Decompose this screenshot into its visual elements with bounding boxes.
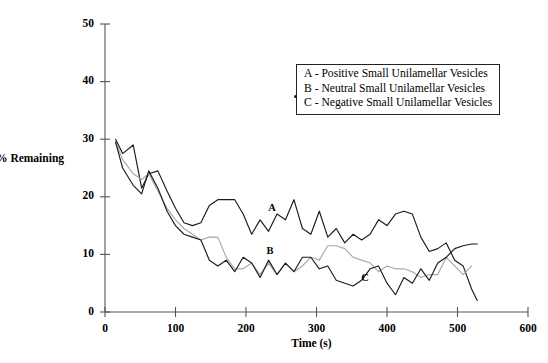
line-chart-plot: 010203040500100200300400500600Time (s)AB… xyxy=(0,0,548,363)
x-tick-label: 500 xyxy=(449,322,467,334)
x-tick-label: 400 xyxy=(378,322,396,334)
y-tick-label: 50 xyxy=(83,17,95,29)
x-tick-label: 100 xyxy=(167,322,185,334)
x-tick-label: 300 xyxy=(308,322,326,334)
y-tick-label: 10 xyxy=(83,247,95,259)
y-tick-label: 20 xyxy=(83,189,95,201)
legend-entry-c: C - Negative Small Unilamellar Vesicles xyxy=(304,96,492,111)
legend-entry-b: B - Neutral Small Unilamellar Vesicles xyxy=(304,82,492,97)
legend-entry-a: A - Positive Small Unilamellar Vesicles xyxy=(304,67,492,82)
x-tick-label: 0 xyxy=(102,322,108,334)
y-tick-label: 0 xyxy=(88,305,94,317)
chart-container: 010203040500100200300400500600Time (s)AB… xyxy=(0,0,548,363)
y-tick-label: 40 xyxy=(83,74,95,86)
curve-label-a: A xyxy=(268,202,276,213)
x-axis-title: Time (s) xyxy=(291,337,332,350)
curve-label-c: C xyxy=(361,272,369,283)
y-tick-label: 30 xyxy=(83,132,95,144)
curve-label-b: B xyxy=(266,245,273,256)
y-axis-title: % Remaining xyxy=(0,152,64,164)
x-tick-label: 600 xyxy=(519,322,537,334)
legend-marker-dot xyxy=(294,95,297,98)
series-line-c xyxy=(116,142,478,295)
series-line-b xyxy=(116,142,472,277)
chart-legend: A - Positive Small Unilamellar Vesicles … xyxy=(296,64,500,115)
x-tick-label: 200 xyxy=(237,322,255,334)
